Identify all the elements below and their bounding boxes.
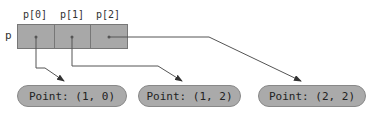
object-point-0: Point: (1, 0)	[17, 85, 127, 107]
arrow-2	[109, 37, 301, 81]
arrow-1	[72, 37, 182, 81]
object-point-2: Point: (2, 2)	[258, 85, 366, 107]
object-point-1: Point: (1, 2)	[138, 85, 241, 107]
arrow-0	[36, 37, 64, 81]
